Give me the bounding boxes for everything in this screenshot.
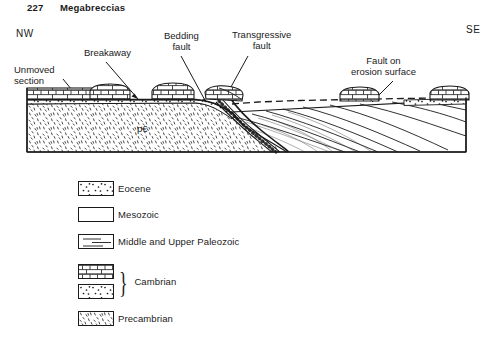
legend-item-eocene: Eocene — [78, 181, 151, 196]
unit-label-precambrian: p€ — [137, 123, 148, 134]
legend-swatch-cambrian-stack — [78, 264, 114, 299]
megabreccia-block-5 — [430, 86, 469, 100]
legend-brace-cambrian: } — [116, 267, 130, 297]
legend-label-precambrian: Precambrian — [118, 313, 173, 324]
legend-swatch-mesozoic — [78, 207, 114, 222]
cross-section-diagram: p€ — [0, 0, 493, 344]
legend-swatch-middle-upper-paleozoic — [78, 234, 114, 249]
legend-label-eocene: Eocene — [118, 183, 151, 194]
megabreccia-block-1 — [90, 84, 130, 99]
legend-swatch-cambrian-carbonate — [78, 264, 114, 279]
megabreccia-block-4 — [340, 87, 379, 101]
legend-swatch-cambrian-clastic — [78, 284, 114, 299]
legend-brace-glyph: } — [119, 267, 128, 297]
megabreccia-block-2 — [152, 83, 194, 99]
legend-swatch-precambrian — [78, 311, 114, 326]
megabreccia-block-3 — [205, 86, 243, 101]
section-body: p€ — [27, 83, 469, 152]
legend-swatch-eocene — [78, 181, 114, 196]
legend-item-precambrian: Precambrian — [78, 311, 173, 326]
legend-label-cambrian: Cambrian — [134, 276, 176, 287]
legend-item-mesozoic: Mesozoic — [78, 207, 159, 222]
legend-label-mesozoic: Mesozoic — [118, 209, 159, 220]
figure-page: 227 Megabreccias NW SE Unmoved section B… — [0, 0, 493, 344]
legend-label-middle-upper-paleozoic: Middle and Upper Paleozoic — [118, 236, 239, 247]
legend-item-cambrian: } Cambrian — [78, 264, 176, 299]
legend-item-middle-upper-paleozoic: Middle and Upper Paleozoic — [78, 234, 239, 249]
